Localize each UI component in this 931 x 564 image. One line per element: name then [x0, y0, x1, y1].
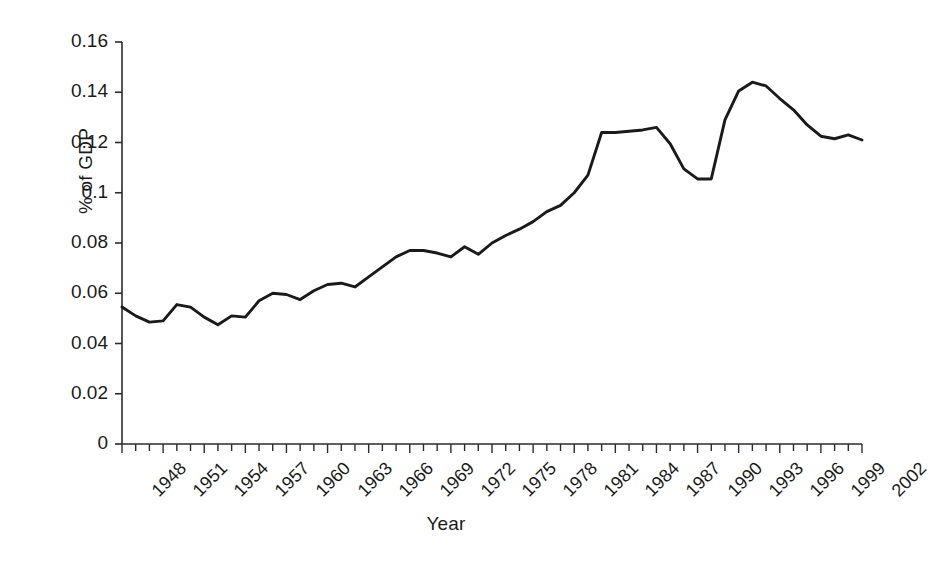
y-axis-tick-label: 0.04 — [30, 332, 108, 354]
y-axis-tick-label: 0.12 — [30, 131, 108, 153]
y-axis-tick-label: 0.02 — [30, 382, 108, 404]
y-axis-tick-label: 0.06 — [30, 281, 108, 303]
x-axis-tick-label: 2002 — [888, 458, 931, 501]
y-axis-tick-label: 0.08 — [30, 231, 108, 253]
y-axis-tick-label: 0.14 — [30, 80, 108, 102]
x-axis-ticks — [122, 444, 862, 453]
data-line — [122, 82, 862, 324]
y-axis-tick-label: 0.16 — [30, 30, 108, 52]
y-axis-tick-label: 0.1 — [30, 181, 108, 203]
y-axis-tick-label: 0 — [30, 432, 108, 454]
data-series-group — [122, 82, 862, 324]
y-axis-ticks — [115, 42, 122, 444]
